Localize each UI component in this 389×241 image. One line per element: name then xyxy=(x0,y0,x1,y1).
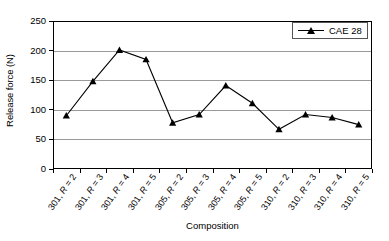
x-tick-mark xyxy=(345,169,346,173)
x-axis-title: Composition xyxy=(53,220,372,231)
x-tick-mark xyxy=(372,169,373,173)
y-tick-label: 250 xyxy=(14,16,46,26)
x-tick-mark xyxy=(292,169,293,173)
legend: CAE 28 xyxy=(292,22,368,39)
x-tick-mark xyxy=(186,169,187,173)
y-tick-label: 200 xyxy=(14,46,46,56)
y-axis-title: Release force (N) xyxy=(0,0,18,180)
legend-series-sample xyxy=(298,26,324,36)
plot-area xyxy=(53,21,372,169)
x-tick-mark xyxy=(53,169,54,173)
y-tick-label: 50 xyxy=(14,134,46,144)
gridline xyxy=(54,139,371,140)
x-tick-mark xyxy=(213,169,214,173)
chart-container: Release force (N) 050100150200250 301, R… xyxy=(0,0,389,241)
x-tick-mark xyxy=(159,169,160,173)
x-tick-mark xyxy=(106,169,107,173)
y-tick-label: 100 xyxy=(14,105,46,115)
x-tick-mark xyxy=(266,169,267,173)
gridline xyxy=(54,80,371,81)
x-tick-mark xyxy=(133,169,134,173)
x-tick-mark xyxy=(80,169,81,173)
triangle-marker-icon xyxy=(307,27,315,34)
y-tick-label: 150 xyxy=(14,75,46,85)
x-tick-mark xyxy=(319,169,320,173)
y-axis-title-text: Release force (N) xyxy=(4,54,15,127)
gridline xyxy=(54,110,371,111)
y-tick-label: 0 xyxy=(14,164,46,174)
gridline xyxy=(54,51,371,52)
x-tick-mark xyxy=(239,169,240,173)
legend-label: CAE 28 xyxy=(329,26,362,36)
